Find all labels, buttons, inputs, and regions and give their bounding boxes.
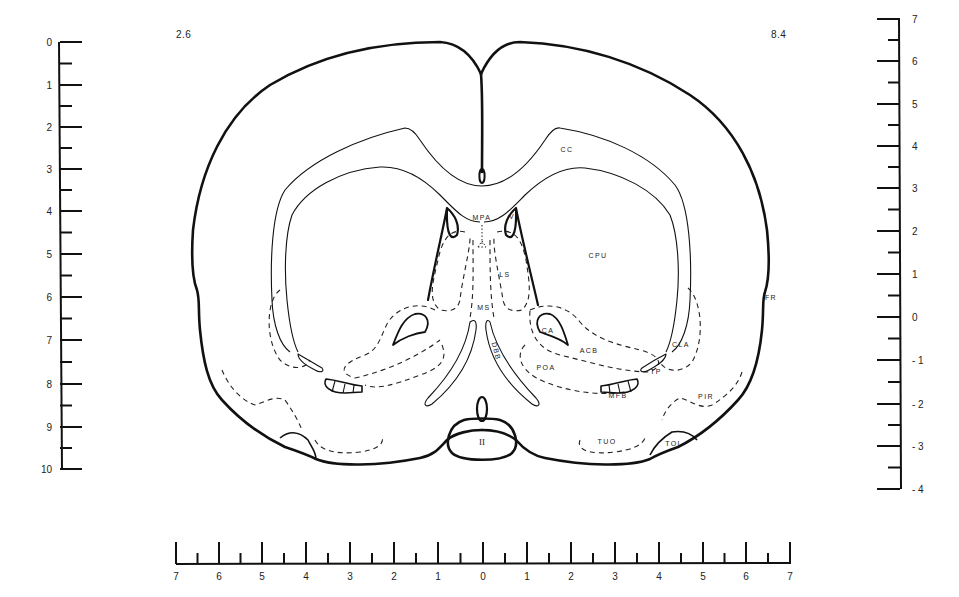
right-scale-label: 6 bbox=[912, 56, 918, 67]
structure-label-tuo: TUO bbox=[598, 438, 617, 445]
right-scale-label: 0 bbox=[912, 312, 918, 323]
bottom-horizontal-scale: 765432101234567 bbox=[173, 542, 793, 582]
left-scale-label: 7 bbox=[46, 335, 52, 346]
structure-label-acb: ACB bbox=[580, 347, 599, 354]
bottom-scale-label: 3 bbox=[347, 571, 353, 582]
structure-label-tol: TOL bbox=[665, 440, 683, 447]
bottom-scale-label: 7 bbox=[787, 571, 793, 582]
left-scale-label: 3 bbox=[46, 164, 52, 175]
structure-label-v: V bbox=[509, 213, 515, 220]
bottom-scale-label: 4 bbox=[303, 571, 309, 582]
diagonal-band-left bbox=[425, 320, 476, 405]
right-scale-label: - 2 bbox=[912, 399, 924, 410]
right-scale-label: 3 bbox=[912, 183, 918, 194]
diagonal-band-right bbox=[486, 320, 539, 405]
left-vertical-scale: 012345678910 bbox=[41, 37, 82, 475]
bottom-scale-label: 6 bbox=[743, 571, 749, 582]
structure-label-mfb: MFB bbox=[609, 392, 628, 399]
left-scale-label: 1 bbox=[46, 80, 52, 91]
tp-left bbox=[298, 354, 323, 372]
interaural-coordinate-label: 8.4 bbox=[771, 29, 786, 40]
olfactory-tubercle-left bbox=[315, 436, 383, 453]
anterior-commissure-left bbox=[393, 314, 428, 345]
structure-label-ls: LS bbox=[499, 271, 510, 278]
right-scale-label: 1 bbox=[912, 269, 918, 280]
corpus-callosum-outer bbox=[271, 128, 482, 352]
left-scale-label: 2 bbox=[46, 122, 52, 133]
bottom-scale-label: 3 bbox=[612, 571, 618, 582]
right-scale-label: - 4 bbox=[912, 484, 924, 495]
structure-label-ii: II bbox=[479, 437, 485, 447]
structure-label-poa: POA bbox=[537, 364, 556, 371]
left-scale-label: 8 bbox=[46, 379, 52, 390]
anterior-coordinate-label: 2.6 bbox=[176, 29, 191, 40]
corpus-callosum-inner bbox=[285, 167, 480, 352]
structure-label-dbb: DBB bbox=[491, 341, 503, 361]
left-scale-label: 6 bbox=[46, 292, 52, 303]
left-scale-label: 0 bbox=[46, 37, 52, 48]
right-scale-label: 4 bbox=[912, 141, 918, 152]
mfb-right bbox=[601, 379, 638, 393]
bottom-scale-label: 1 bbox=[435, 571, 441, 582]
midline-fissure bbox=[481, 74, 482, 172]
bottom-scale-label: 2 bbox=[391, 571, 397, 582]
right-scale-label: 7 bbox=[912, 14, 918, 25]
bottom-scale-label: 1 bbox=[524, 571, 530, 582]
bottom-scale-label: 5 bbox=[259, 571, 265, 582]
left-scale-label: 9 bbox=[46, 422, 52, 433]
bottom-scale-label: 2 bbox=[568, 571, 574, 582]
corpus-callosum-outer-right bbox=[482, 128, 691, 352]
preoptic-left bbox=[365, 345, 444, 387]
bottom-scale-label: 7 bbox=[173, 571, 179, 582]
structure-label-ca: CA bbox=[542, 327, 555, 334]
bottom-scale-label: 6 bbox=[216, 571, 222, 582]
claustrum-left bbox=[269, 290, 310, 368]
lateral-septum-left bbox=[432, 231, 470, 310]
claustrum-right bbox=[660, 288, 700, 370]
right-vertical-scale: 76543210- 1- 2- 3- 4 bbox=[877, 14, 924, 495]
right-scale-label: - 3 bbox=[912, 441, 924, 452]
structure-label-cla: CLA bbox=[672, 341, 690, 348]
structure-label-mpa: MPA bbox=[473, 214, 492, 221]
left-scale-label: 5 bbox=[46, 249, 52, 260]
brain-atlas-plate: 2.6 8.4 012345678910 76543210- 1- 2- 3- … bbox=[0, 0, 959, 597]
right-scale-label: 2 bbox=[912, 226, 918, 237]
left-scale-label: 4 bbox=[46, 206, 52, 217]
bottom-scale-label: 0 bbox=[480, 571, 486, 582]
structure-label-ms: MS bbox=[477, 304, 490, 311]
bottom-scale-label: 5 bbox=[700, 571, 706, 582]
piriform-left bbox=[222, 370, 302, 430]
right-scale-label: 5 bbox=[912, 99, 918, 110]
structure-label-tp: TP bbox=[650, 368, 662, 375]
accumbens-right bbox=[530, 306, 659, 372]
structure-label-cpu: CPU bbox=[589, 252, 608, 259]
right-lateral-ventricle bbox=[505, 208, 538, 305]
structure-label-pir: PIR bbox=[698, 393, 714, 400]
corpus-callosum-inner-right bbox=[484, 168, 678, 352]
structure-label-fr: FR bbox=[765, 294, 777, 301]
left-lateral-ventricle bbox=[428, 208, 458, 300]
structure-labels: CCMPAVCPULSMSCAACBDBBPOAMFBTPCLAFRPIRTUO… bbox=[473, 146, 778, 447]
mfb-left bbox=[325, 379, 362, 393]
left-scale-label: 10 bbox=[41, 464, 53, 475]
brain-section bbox=[192, 42, 769, 465]
right-scale-label: - 1 bbox=[912, 355, 924, 366]
structure-label-cc: CC bbox=[561, 146, 574, 153]
bottom-scale-label: 4 bbox=[656, 571, 662, 582]
